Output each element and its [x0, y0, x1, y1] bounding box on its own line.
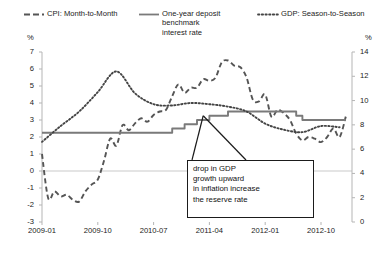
annotation-line-2: growth upward — [193, 174, 309, 184]
annotation-line-3: in inflation increase — [193, 184, 309, 194]
annotation-line-1: drop in GDP — [193, 164, 309, 174]
annotation-leader-lines — [192, 116, 246, 160]
series-line-deposit — [42, 112, 346, 133]
annotation-callout: drop in GDP growth upward in inflation i… — [187, 160, 314, 218]
chart-container: CPI: Month-to-Month One-year deposit ben… — [0, 0, 390, 255]
annotation-line-4: the reserve rate — [193, 195, 309, 205]
series-line-gdp — [42, 71, 340, 141]
